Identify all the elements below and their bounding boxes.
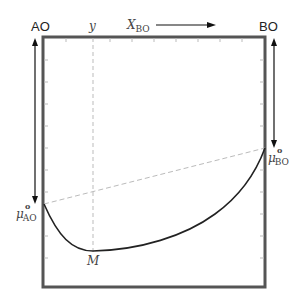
plot-frame — [43, 37, 265, 287]
mu-bo-label: μoBO — [268, 152, 289, 167]
x-axis-label: XBO — [127, 19, 150, 34]
mu-ao-label: μoAO — [16, 208, 37, 223]
mu-bo-degree: o — [277, 146, 282, 154]
x-axis-label-main: X — [127, 18, 136, 32]
corner-label-bo: BO — [259, 20, 278, 33]
mixture-line — [44, 148, 265, 204]
left-ticks — [44, 60, 48, 258]
right-double-arrow — [271, 38, 277, 148]
mu-ao-degree: o — [25, 202, 30, 210]
x-direction-arrow — [156, 22, 216, 28]
top-ticks — [66, 38, 242, 42]
mu-ao-subscript: AO — [23, 213, 37, 223]
minimum-label: M — [87, 255, 99, 267]
diagram-canvas — [0, 0, 303, 302]
x-axis-label-sub: BO — [136, 24, 150, 34]
corner-label-ao: AO — [31, 20, 50, 33]
free-energy-curve — [44, 148, 265, 251]
left-double-arrow — [32, 38, 38, 204]
mu-bo-subscript: BO — [275, 157, 289, 167]
y-marker-label: y — [89, 20, 96, 32]
